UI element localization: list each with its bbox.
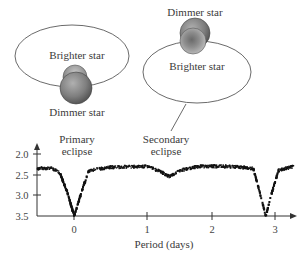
- x-axis-label: Period (days): [135, 238, 194, 250]
- light-curve-data: [37, 164, 294, 216]
- x-tick-label: 1: [144, 224, 149, 235]
- x-tick-label: 0: [71, 224, 76, 235]
- secondary-leader-line: [171, 104, 186, 131]
- y-tick-label: 3.0: [15, 190, 28, 201]
- left-dimmer-star-label: Dimmer star: [49, 106, 104, 118]
- primary-eclipse-label-1: Primary: [59, 133, 94, 145]
- brighter-star-front: [180, 28, 206, 54]
- primary-eclipse-label-2: eclipse: [62, 145, 93, 157]
- x-tick-label: 2: [209, 224, 214, 235]
- left-brighter-star-label: Brighter star: [49, 49, 104, 61]
- dimmer-star-front: [60, 72, 92, 104]
- y-tick-label: 3.5: [15, 211, 28, 222]
- right-dimmer-star-label: Dimmer star: [167, 6, 222, 18]
- y-tick-label: 2.0: [15, 149, 28, 160]
- secondary-eclipse-label-2: eclipse: [151, 145, 182, 157]
- y-tick-label: 2.5: [15, 170, 28, 181]
- eclipsing-binary-diagram: [0, 0, 307, 263]
- x-tick-label: 3: [272, 224, 277, 235]
- right-brighter-star-label: Brighter star: [169, 60, 224, 72]
- secondary-eclipse-label-1: Secondary: [143, 133, 189, 145]
- right-binary-system: [143, 18, 251, 131]
- left-binary-system: [15, 25, 129, 104]
